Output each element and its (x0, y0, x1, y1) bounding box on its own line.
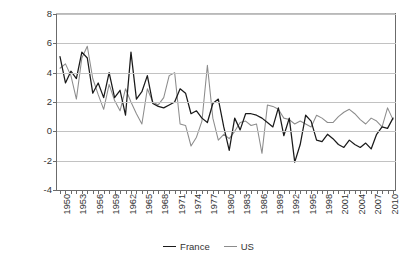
x-tick-label: 1950 (63, 194, 72, 234)
x-tick-label: 1995 (309, 194, 318, 234)
x-tick-label: 1962 (129, 194, 138, 234)
gridline (57, 102, 396, 103)
y-tick-label: 8 (36, 9, 52, 19)
legend-label: France (180, 241, 210, 252)
x-tick-label: 1992 (292, 194, 301, 234)
x-tick-label: 2007 (374, 194, 383, 234)
legend-line-icon (224, 246, 237, 247)
x-tick-label: 1983 (243, 194, 252, 234)
legend-line-icon (163, 246, 176, 247)
y-tick-label: 6 (36, 38, 52, 48)
gridline (57, 161, 396, 162)
x-tick-label: 1986 (260, 194, 269, 234)
legend-entry-france[interactable]: France (163, 241, 210, 252)
x-tick-label: 1989 (276, 194, 285, 234)
legend-entry-us[interactable]: US (224, 241, 254, 252)
y-tick-mark (53, 73, 57, 74)
x-tick-label: 1968 (161, 194, 170, 234)
chart-legend: FranceUS (0, 238, 417, 254)
y-axis-tick-labels: -4-202468 (32, 0, 52, 256)
gridline (57, 73, 396, 74)
x-tick-label: 2010 (391, 194, 400, 234)
x-tick-label: 1953 (79, 194, 88, 234)
x-tick-label: 1971 (178, 194, 187, 234)
x-tick-label: 1998 (325, 194, 334, 234)
y-tick-mark (53, 102, 57, 103)
plot-area (56, 14, 396, 191)
y-tick-label: -2 (36, 156, 52, 166)
x-tick-label: 1965 (145, 194, 154, 234)
legend-label: US (241, 241, 254, 252)
series-line-france (60, 52, 393, 162)
x-tick-label: 1959 (112, 194, 121, 234)
x-axis-tick-labels: 1950195319561959196219651968197119741977… (56, 194, 401, 236)
x-tick-label: 1974 (194, 194, 203, 234)
x-tick-label: 1977 (210, 194, 219, 234)
y-tick-label: 2 (36, 97, 52, 107)
y-tick-mark (53, 190, 57, 191)
gridline (57, 43, 396, 44)
line-chart: Percentage -4-202468 1950195319561959196… (0, 0, 417, 256)
y-tick-label: -4 (36, 185, 52, 195)
x-tick-label: 2001 (341, 194, 350, 234)
y-tick-mark (53, 14, 57, 15)
y-tick-label: 0 (36, 126, 52, 136)
gridline (57, 131, 396, 132)
x-tick-label: 1980 (227, 194, 236, 234)
y-tick-mark (53, 161, 57, 162)
y-tick-mark (53, 43, 57, 44)
y-tick-mark (53, 131, 57, 132)
x-tick-label: 1956 (96, 194, 105, 234)
x-tick-label: 2004 (358, 194, 367, 234)
y-tick-label: 4 (36, 68, 52, 78)
gridline (57, 14, 396, 15)
